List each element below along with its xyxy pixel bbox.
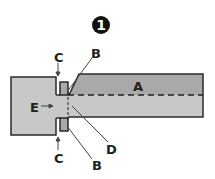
label-C-top: C bbox=[54, 50, 64, 65]
arrow-C-bottom bbox=[56, 137, 60, 141]
label-A: A bbox=[133, 79, 143, 94]
main-bar-lower bbox=[68, 95, 203, 117]
label-B-bottom: B bbox=[92, 158, 102, 173]
step-badge: 1 bbox=[92, 16, 110, 34]
label-B-top: B bbox=[91, 46, 101, 61]
step-number: 1 bbox=[96, 17, 106, 33]
label-C-bottom: C bbox=[54, 151, 64, 166]
label-E: E bbox=[30, 100, 39, 115]
flange-bottom bbox=[60, 118, 68, 131]
label-D: D bbox=[106, 142, 117, 157]
flange-top bbox=[60, 82, 68, 95]
neck-opening bbox=[55, 96, 58, 117]
arrow-C-top bbox=[56, 72, 60, 76]
leader-B-bottom bbox=[67, 126, 92, 159]
diagram: 1 C B A E D C B bbox=[0, 0, 215, 179]
